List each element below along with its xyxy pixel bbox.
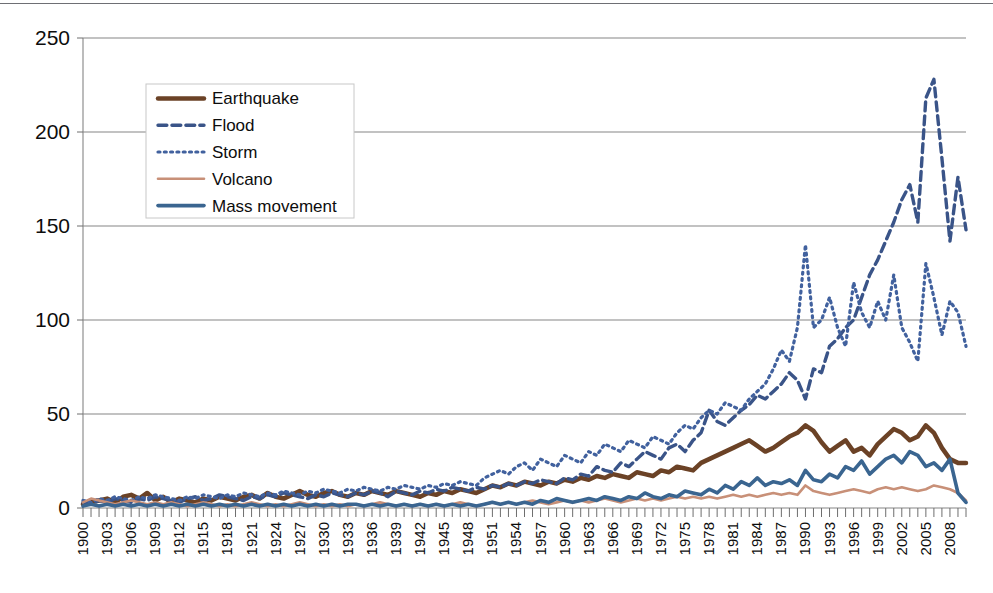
y-axis-tick-labels: 250200150100500 bbox=[35, 26, 70, 519]
x-axis-label: 2002 bbox=[893, 522, 910, 555]
legend-label-mass-movement: Mass movement bbox=[212, 197, 337, 216]
x-axis-label: 1906 bbox=[122, 522, 139, 555]
line-chart: 250200150100500 190019031906190919121915… bbox=[0, 0, 993, 593]
x-axis-label: 1909 bbox=[146, 522, 163, 555]
x-axis-label: 1918 bbox=[218, 522, 235, 555]
x-axis-label: 1954 bbox=[507, 522, 524, 555]
y-axis-label: 50 bbox=[47, 402, 70, 425]
x-axis-label: 1969 bbox=[628, 522, 645, 555]
x-axis-label: 1936 bbox=[363, 522, 380, 555]
x-axis-label: 1963 bbox=[580, 522, 597, 555]
x-axis-label: 1921 bbox=[243, 522, 260, 555]
x-axis-label: 2005 bbox=[917, 522, 934, 555]
x-axis-label: 1948 bbox=[459, 522, 476, 555]
x-axis-label: 1987 bbox=[772, 522, 789, 555]
legend-label-earthquake: Earthquake bbox=[212, 89, 299, 108]
x-axis-label: 1957 bbox=[532, 522, 549, 555]
legend-label-storm: Storm bbox=[212, 143, 257, 162]
x-axis-tick-labels: 1900190319061909191219151918192119241927… bbox=[74, 522, 958, 555]
legend-label-flood: Flood bbox=[212, 116, 255, 135]
x-axis-label: 1975 bbox=[676, 522, 693, 555]
x-axis-label: 2008 bbox=[941, 522, 958, 555]
y-axis-label: 150 bbox=[35, 214, 70, 237]
x-axis-label: 1981 bbox=[724, 522, 741, 555]
y-axis-label: 100 bbox=[35, 308, 70, 331]
x-axis-label: 1903 bbox=[98, 522, 115, 555]
scan-artifact-line bbox=[0, 3, 993, 4]
chart-legend: EarthquakeFloodStormVolcanoMass movement bbox=[146, 84, 354, 218]
x-axis-label: 1915 bbox=[194, 522, 211, 555]
x-axis-label: 1996 bbox=[845, 522, 862, 555]
x-axis-label: 1912 bbox=[170, 522, 187, 555]
series-line-storm bbox=[83, 245, 966, 503]
y-axis-label: 250 bbox=[35, 26, 70, 49]
legend-label-volcano: Volcano bbox=[212, 170, 273, 189]
x-axis-label: 1978 bbox=[700, 522, 717, 555]
x-axis-label: 1966 bbox=[604, 522, 621, 555]
x-axis-label: 1945 bbox=[435, 522, 452, 555]
y-axis-label: 0 bbox=[58, 496, 70, 519]
x-axis-label: 1960 bbox=[556, 522, 573, 555]
x-axis-label: 1951 bbox=[483, 522, 500, 555]
x-axis-label: 1972 bbox=[652, 522, 669, 555]
x-axis-label: 1993 bbox=[821, 522, 838, 555]
x-axis-label: 1984 bbox=[748, 522, 765, 555]
chart-container: 250200150100500 190019031906190919121915… bbox=[0, 0, 993, 593]
x-axis-label: 1927 bbox=[291, 522, 308, 555]
x-axis-label: 1942 bbox=[411, 522, 428, 555]
x-axis-label: 1924 bbox=[267, 522, 284, 555]
x-axis-label: 1930 bbox=[315, 522, 332, 555]
x-axis-label: 1939 bbox=[387, 522, 404, 555]
y-axis-label: 200 bbox=[35, 120, 70, 143]
x-axis-label: 1999 bbox=[869, 522, 886, 555]
x-axis-label: 1933 bbox=[339, 522, 356, 555]
x-axis-label: 1900 bbox=[74, 522, 91, 555]
x-axis-label: 1990 bbox=[796, 522, 813, 555]
